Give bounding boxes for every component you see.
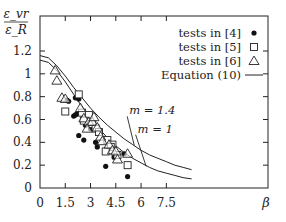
- x-tick-label: 0: [36, 196, 44, 210]
- data-point: [75, 91, 82, 98]
- y-tick-label: 0: [24, 181, 32, 195]
- y-tick-label: 0.6: [13, 113, 32, 127]
- data-point: [81, 137, 86, 142]
- x-tick-label: 1.5: [56, 196, 75, 210]
- data-point: [124, 162, 131, 169]
- annotation-leader: [136, 135, 147, 167]
- legend-label: tests in [4]: [178, 26, 241, 40]
- data-point: [75, 103, 85, 112]
- legend-label: tests in [6]: [178, 54, 241, 68]
- data-point: [52, 76, 62, 85]
- legend-marker: [251, 30, 256, 35]
- x-tick-label: 7.5: [157, 196, 176, 210]
- y-axis-label: ε_vr ε_R: [4, 7, 30, 37]
- data-point: [76, 133, 81, 138]
- data-point: [62, 108, 69, 115]
- x-tick-label: 6: [137, 196, 145, 210]
- y-axis-label-denominator: ε_R: [5, 23, 26, 37]
- legend-label: Equation (10): [161, 68, 241, 82]
- legend: tests in [4]tests in [5]tests in [6]Equa…: [161, 26, 263, 82]
- curve-annotation-label: m = 1: [138, 122, 173, 136]
- x-tick-label: 3: [87, 196, 95, 210]
- y-axis-label-numerator: ε_vr: [4, 7, 30, 21]
- data-point: [103, 164, 108, 169]
- data-point: [50, 65, 60, 74]
- y-tick-label: 0.8: [13, 90, 32, 104]
- y-tick-label: 0.4: [13, 135, 32, 149]
- y-tick-label: 1: [24, 67, 32, 81]
- y-tick-label: 1.2: [13, 44, 32, 58]
- legend-label: tests in [5]: [178, 40, 241, 54]
- y-tick-label: 0.2: [13, 158, 32, 172]
- chart: ε_vr ε_R 01.534.567.500.20.40.60.811.2 β…: [0, 0, 286, 222]
- legend-marker: [249, 56, 259, 65]
- x-tick-label: 4.5: [106, 196, 125, 210]
- data-point: [125, 174, 130, 179]
- curve-annotation-label: m = 1.4: [129, 103, 175, 117]
- legend-marker: [251, 44, 258, 51]
- x-axis-label: β: [261, 195, 270, 210]
